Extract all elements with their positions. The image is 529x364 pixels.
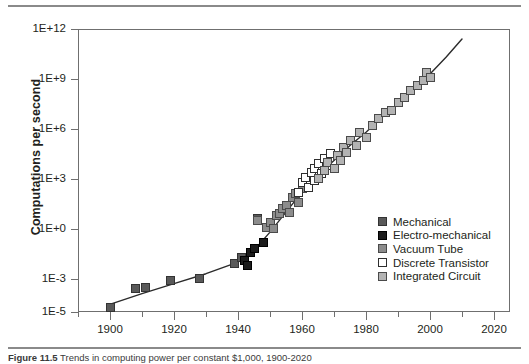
data-point-marker — [294, 198, 303, 207]
x-tick-mark-minor — [78, 312, 79, 317]
figure-bottom-rule — [8, 347, 521, 349]
legend-label: Mechanical — [393, 216, 451, 228]
legend-swatch-icon — [378, 258, 387, 267]
x-tick-label: 2020 — [464, 323, 524, 335]
x-tick-label: 1960 — [272, 323, 332, 335]
legend-item[interactable]: Discrete Transistor — [378, 256, 491, 270]
legend-item[interactable]: Mechanical — [378, 215, 491, 229]
x-tick-label: 1940 — [208, 323, 268, 335]
x-tick-mark-minor — [462, 312, 463, 317]
x-tick-mark — [430, 312, 431, 320]
figure-container: Computations per second 1E+121E+91E+61E+… — [0, 0, 529, 364]
data-point-marker — [362, 133, 371, 142]
x-tick-mark — [302, 312, 303, 320]
caption-text: Trends in computing power per constant $… — [60, 352, 312, 363]
legend-swatch-icon — [378, 217, 387, 226]
data-point-marker — [269, 224, 278, 233]
legend-swatch-icon — [378, 231, 387, 240]
data-point-marker — [387, 106, 396, 115]
data-point-marker — [320, 166, 329, 175]
legend-item[interactable]: Integrated Circuit — [378, 269, 491, 283]
legend-item[interactable]: Electro-mechanical — [378, 229, 491, 243]
x-tick-mark-minor — [206, 312, 207, 317]
legend-label: Integrated Circuit — [393, 270, 481, 282]
trend-line — [0, 0, 529, 364]
x-tick-mark-minor — [398, 312, 399, 317]
data-point-marker — [250, 244, 259, 253]
data-point-marker — [294, 188, 303, 197]
data-point-marker — [342, 148, 351, 157]
x-tick-label: 1980 — [336, 323, 396, 335]
caption-label: Figure 11.5 — [8, 352, 58, 363]
x-tick-label: 1920 — [144, 323, 204, 335]
legend: MechanicalElectro-mechanicalVacuum TubeD… — [378, 215, 491, 283]
data-point-marker — [285, 208, 294, 217]
data-point-marker — [141, 283, 150, 292]
legend-swatch-icon — [378, 244, 387, 253]
data-point-marker — [166, 276, 175, 285]
x-tick-mark-minor — [142, 312, 143, 317]
data-point-marker — [195, 274, 204, 283]
x-tick-mark — [366, 312, 367, 320]
x-tick-label: 1900 — [80, 323, 140, 335]
x-tick-mark-minor — [270, 312, 271, 317]
data-point-marker — [352, 141, 361, 150]
x-tick-label: 2000 — [400, 323, 460, 335]
x-tick-mark — [238, 312, 239, 320]
legend-label: Discrete Transistor — [393, 257, 489, 269]
data-point-marker — [131, 284, 140, 293]
data-point-marker — [106, 303, 115, 312]
data-point-marker — [336, 156, 345, 165]
x-tick-mark — [174, 312, 175, 320]
data-point-marker — [330, 164, 339, 173]
data-point-marker — [314, 174, 323, 183]
data-point-marker — [243, 261, 252, 270]
x-tick-mark — [110, 312, 111, 320]
legend-label: Electro-mechanical — [393, 229, 491, 241]
legend-item[interactable]: Vacuum Tube — [378, 242, 491, 256]
data-point-marker — [253, 216, 262, 225]
data-point-marker — [259, 238, 268, 247]
legend-swatch-icon — [378, 272, 387, 281]
figure-caption: Figure 11.5 Trends in computing power pe… — [8, 352, 521, 363]
x-tick-mark — [494, 312, 495, 320]
x-tick-mark-minor — [334, 312, 335, 317]
legend-label: Vacuum Tube — [393, 243, 463, 255]
data-point-marker — [426, 73, 435, 82]
